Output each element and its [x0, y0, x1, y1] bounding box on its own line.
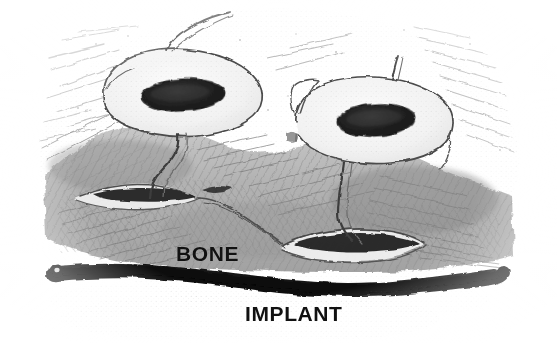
bone-implant-illustration: BONE IMPLANT [0, 0, 557, 343]
bone-label: BONE [176, 243, 239, 264]
edge-vignette [0, 0, 557, 343]
implant-label: IMPLANT [245, 303, 343, 324]
illustration-canvas [0, 0, 557, 343]
